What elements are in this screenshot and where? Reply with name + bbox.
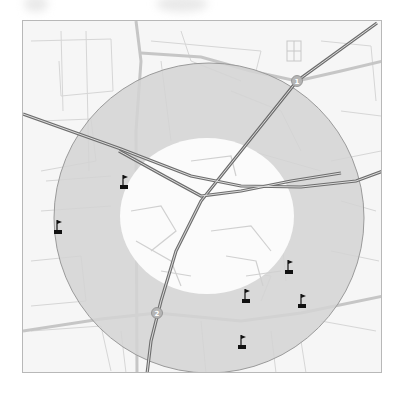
- highway-badge-1: 1: [292, 76, 303, 87]
- highway-badge-2: 2: [152, 308, 163, 319]
- top-center-blur: [156, 0, 208, 12]
- svg-text:2: 2: [155, 310, 160, 318]
- radius-ring: [54, 63, 364, 373]
- svg-text:1: 1: [295, 78, 300, 86]
- top-left-blur: [24, 0, 48, 12]
- map-view[interactable]: 1 2: [22, 20, 382, 373]
- map-canvas[interactable]: 1 2: [23, 21, 382, 373]
- building-grid: [287, 41, 301, 61]
